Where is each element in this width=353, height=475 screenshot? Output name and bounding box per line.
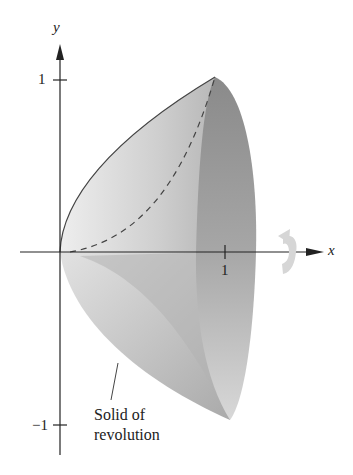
annotation-line-2: revolution [94,427,160,443]
annotation-line-1: Solid of [94,407,145,423]
y-tick-label-neg1: −1 [32,418,48,433]
x-axis-arrow-icon [306,248,324,256]
y-axis-label: y [53,20,60,35]
annotation-leader-line [111,363,118,400]
x-tick-label-1: 1 [221,263,229,278]
y-axis-arrow-icon [56,44,64,60]
y-tick-label-1: 1 [38,72,46,87]
solid-of-revolution-diagram [0,0,353,475]
x-axis-label: x [328,243,335,258]
